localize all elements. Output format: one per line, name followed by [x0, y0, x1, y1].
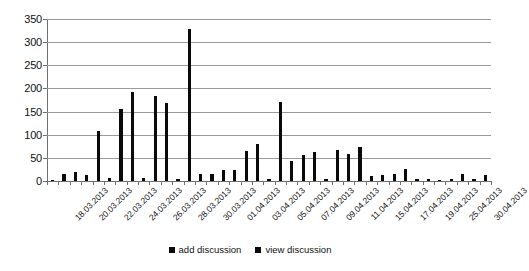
- x-axis-tick-mark: [218, 181, 219, 185]
- x-axis-tick-mark: [161, 181, 162, 185]
- x-axis-tick-mark: [195, 181, 196, 185]
- x-axis-tick-mark: [241, 181, 242, 185]
- legend-item[interactable]: view discussion: [255, 244, 331, 255]
- bar-series-group: [47, 19, 491, 181]
- bar-view-discussion: [393, 174, 396, 181]
- bar-view-discussion: [245, 151, 248, 181]
- x-axis-tick-mark: [377, 181, 378, 185]
- x-axis-tick-mark: [480, 181, 481, 185]
- bar-view-discussion: [154, 96, 157, 181]
- x-axis-tick-mark: [58, 181, 59, 185]
- x-axis-tick-mark: [286, 181, 287, 185]
- x-axis-tick-mark: [47, 181, 48, 185]
- x-axis-tick-mark: [229, 181, 230, 185]
- x-axis-tick-mark: [320, 181, 321, 185]
- x-axis-tick-mark: [366, 181, 367, 185]
- bar-view-discussion: [199, 174, 202, 181]
- x-axis-tick-mark: [434, 181, 435, 185]
- x-axis-tick-mark: [184, 181, 185, 185]
- bar-view-discussion: [131, 92, 134, 181]
- bar-view-discussion: [165, 103, 168, 181]
- x-axis-tick-mark: [491, 181, 492, 185]
- legend-item[interactable]: add discussion: [169, 244, 242, 255]
- x-axis-tick-mark: [70, 181, 71, 185]
- x-axis-tick-mark: [332, 181, 333, 185]
- x-axis-tick-mark: [115, 181, 116, 185]
- x-axis-tick-mark: [81, 181, 82, 185]
- x-axis-tick-mark: [138, 181, 139, 185]
- bar-view-discussion: [358, 147, 361, 181]
- chart-legend: add discussionview discussion: [0, 244, 500, 255]
- bar-view-discussion: [313, 152, 316, 181]
- legend-swatch-square-icon: [169, 247, 175, 253]
- x-axis-tick-mark: [149, 181, 150, 185]
- bar-view-discussion: [119, 109, 122, 181]
- x-axis-tick-mark: [309, 181, 310, 185]
- x-axis-tick-mark: [252, 181, 253, 185]
- x-axis-tick-mark: [263, 181, 264, 185]
- bar-view-discussion: [302, 155, 305, 181]
- x-axis-tick-mark: [206, 181, 207, 185]
- bar-view-discussion: [210, 174, 213, 181]
- bar-view-discussion: [62, 174, 65, 181]
- y-axis-tick-marks: [0, 19, 50, 181]
- plot-area: [47, 19, 491, 181]
- x-axis-tick-mark: [457, 181, 458, 185]
- bar-view-discussion: [404, 169, 407, 181]
- x-axis-tick-mark: [445, 181, 446, 185]
- bar-view-discussion: [347, 154, 350, 181]
- bar-view-discussion: [461, 174, 464, 181]
- x-axis-tick-mark: [343, 181, 344, 185]
- bar-view-discussion: [279, 102, 282, 181]
- bar-view-discussion: [233, 170, 236, 181]
- x-axis-labels: 18.03.201320.03.201322.03.201324.03.2013…: [0, 186, 500, 242]
- bar-view-discussion: [97, 131, 100, 181]
- bar-view-discussion: [222, 170, 225, 181]
- x-axis-tick-mark: [297, 181, 298, 185]
- x-axis-tick-mark: [468, 181, 469, 185]
- x-axis-tick-mark: [411, 181, 412, 185]
- x-axis-tick-mark: [354, 181, 355, 185]
- x-axis-tick-mark: [400, 181, 401, 185]
- x-axis-tick-mark: [389, 181, 390, 185]
- legend-label: add discussion: [179, 244, 242, 255]
- x-axis-tick-mark: [104, 181, 105, 185]
- legend-label: view discussion: [265, 244, 331, 255]
- bar-view-discussion: [188, 29, 191, 181]
- legend-swatch-square-icon: [255, 247, 261, 253]
- x-axis-tick-mark: [172, 181, 173, 185]
- bar-view-discussion: [74, 172, 77, 181]
- bar-view-discussion: [336, 150, 339, 181]
- bar-view-discussion: [256, 144, 259, 181]
- bar-view-discussion: [290, 161, 293, 181]
- x-axis-tick-mark: [93, 181, 94, 185]
